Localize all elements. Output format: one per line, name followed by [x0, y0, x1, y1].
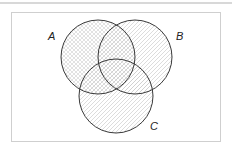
set-c-label: C [150, 120, 158, 132]
set-b-label: B [176, 30, 183, 42]
set-fills [61, 20, 172, 133]
set-a-label: A [47, 30, 55, 42]
venn-diagram: A B C [0, 0, 232, 151]
